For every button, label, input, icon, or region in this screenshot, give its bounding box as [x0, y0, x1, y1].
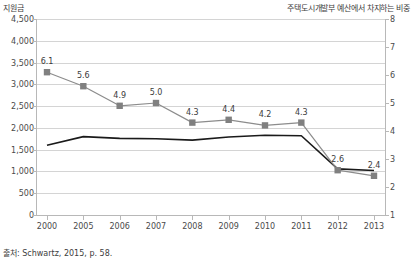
source-note: 출처: Schwartz, 2015, p. 58.	[3, 247, 112, 258]
x-axis-tick	[120, 216, 121, 220]
data-label: 5.6	[77, 71, 90, 80]
data-label: 4.4	[222, 105, 235, 114]
left-axis-tick-label: 2,000	[2, 123, 34, 132]
left-axis-title: 지원금	[3, 2, 23, 13]
right-axis-tick	[386, 47, 389, 48]
series-marker	[298, 119, 304, 125]
x-axis-tick	[192, 216, 193, 220]
data-label: 4.3	[295, 108, 308, 117]
left-axis-tick	[33, 215, 36, 216]
right-axis-tick-label: 7	[390, 43, 410, 52]
x-axis-tick-label: 2009	[218, 222, 238, 231]
right-axis-tick-label: 8	[390, 15, 410, 24]
right-axis-tick-label: 6	[390, 71, 410, 80]
x-axis-tick-label: 2000	[37, 222, 57, 231]
x-axis-tick-label: 2006	[109, 222, 129, 231]
left-axis-tick-label: 4,500	[2, 15, 34, 24]
right-axis-tick	[386, 131, 389, 132]
left-axis-tick-label: 1,500	[2, 145, 34, 154]
series-marker	[225, 117, 231, 123]
data-label: 2.6	[331, 155, 344, 164]
right-axis-tick	[386, 187, 389, 188]
x-axis-tick-label: 2012	[327, 222, 347, 231]
left-axis-tick-label: 3,000	[2, 80, 34, 89]
left-axis-tick-label: 3,500	[2, 58, 34, 67]
right-axis-tick-label: 3	[390, 155, 410, 164]
right-axis-tick	[386, 215, 389, 216]
right-axis-tick-label: 4	[390, 127, 410, 136]
left-axis-tick-label: 500	[2, 189, 34, 198]
series-marker	[44, 69, 50, 75]
left-axis-tick-label: 2,500	[2, 102, 34, 111]
series-marker	[371, 173, 377, 179]
x-axis-tick-label: 2011	[291, 222, 311, 231]
right-axis-tick-label: 2	[390, 183, 410, 192]
right-axis-tick	[386, 75, 389, 76]
x-axis-tick-label: 2008	[182, 222, 202, 231]
series-marker	[116, 103, 122, 109]
series-line	[47, 72, 374, 176]
left-axis-tick-label: 0	[2, 211, 34, 220]
data-label: 4.2	[259, 110, 272, 119]
right-axis-tick	[386, 159, 389, 160]
data-label: 4.9	[113, 91, 126, 100]
right-axis-title: 주택도시개발부 예산에서 차지하는 비중	[287, 2, 410, 13]
series-plot	[36, 19, 385, 215]
x-axis-tick	[301, 216, 302, 220]
data-label: 2.4	[368, 161, 381, 170]
right-axis-tick	[386, 19, 389, 20]
series-marker	[80, 83, 86, 89]
x-axis-tick	[374, 216, 375, 220]
x-axis-tick-label: 2013	[364, 222, 384, 231]
x-axis-tick-label: 2010	[255, 222, 275, 231]
right-axis-tick	[386, 103, 389, 104]
x-axis-tick	[265, 216, 266, 220]
x-axis-tick	[229, 216, 230, 220]
x-axis-tick	[156, 216, 157, 220]
data-label: 6.1	[41, 57, 54, 66]
x-axis-line	[36, 215, 386, 216]
series-marker	[153, 100, 159, 106]
right-axis-tick-label: 5	[390, 99, 410, 108]
x-axis-tick-label: 2007	[146, 222, 166, 231]
series-marker	[189, 119, 195, 125]
left-axis-tick-label: 1,000	[2, 167, 34, 176]
chart-container: 지원금 주택도시개발부 예산에서 차지하는 비중 05001,0001,5002…	[0, 0, 414, 263]
series-marker	[334, 167, 340, 173]
x-axis-tick	[338, 216, 339, 220]
x-axis-tick	[83, 216, 84, 220]
series-marker	[262, 122, 268, 128]
x-axis-tick-label: 2005	[73, 222, 93, 231]
right-axis-tick-label: 1	[390, 211, 410, 220]
data-label: 5.0	[150, 88, 163, 97]
x-axis-tick	[47, 216, 48, 220]
data-label: 4.3	[186, 108, 199, 117]
left-axis-tick-label: 4,000	[2, 36, 34, 45]
